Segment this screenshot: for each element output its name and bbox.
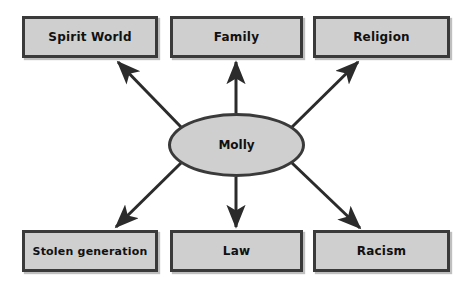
node-label: Law: [223, 245, 250, 257]
center-label: Molly: [218, 139, 254, 151]
arrow-molly-to-religion: [292, 62, 358, 127]
concept-map-diagram: Spirit World Family Religion Molly Stole…: [0, 0, 473, 287]
node-law[interactable]: Law: [170, 230, 303, 272]
node-label: Stolen generation: [33, 246, 148, 257]
node-label: Spirit World: [48, 31, 131, 43]
arrow-molly-to-stolen-generation: [116, 163, 181, 227]
node-spirit-world[interactable]: Spirit World: [22, 16, 158, 58]
arrow-molly-to-racism: [292, 163, 360, 228]
node-label: Racism: [357, 245, 406, 257]
node-racism[interactable]: Racism: [313, 230, 450, 272]
node-stolen-generation[interactable]: Stolen generation: [22, 230, 158, 272]
node-label: Religion: [353, 31, 410, 43]
node-molly-center[interactable]: Molly: [168, 113, 305, 177]
node-family[interactable]: Family: [170, 16, 303, 58]
node-religion[interactable]: Religion: [313, 16, 450, 58]
node-label: Family: [214, 31, 259, 43]
arrow-molly-to-spirit-world: [118, 62, 181, 127]
